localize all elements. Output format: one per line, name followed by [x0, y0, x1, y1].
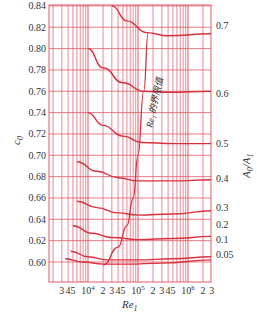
y-tick-label: 0.62 — [29, 235, 47, 246]
x-tick-label: 104 — [81, 284, 95, 296]
x-tick-label: 2 — [151, 285, 156, 296]
x-tick-label: 105 — [131, 284, 145, 296]
curve-ratio-0.3 — [77, 201, 212, 215]
area-ratio-labels: 0.70.60.50.40.30.20.10.05 — [216, 20, 234, 260]
ratio-label: 0.2 — [216, 219, 229, 230]
x-tick-label: 2 — [201, 285, 206, 296]
y-tick-label: 0.84 — [29, 0, 47, 11]
y-tick-label: 0.60 — [29, 257, 47, 268]
ratio-label: 0.5 — [216, 138, 229, 149]
curve-ratio-0.4 — [77, 162, 212, 181]
x-tick-label: 3 — [209, 285, 214, 296]
x-axis-ticks: 3451042345105234510623 — [59, 284, 214, 296]
ratio-label: 0.7 — [216, 20, 229, 31]
y-axis-label: c0 — [10, 136, 25, 145]
curve-ratio-0.1 — [71, 251, 212, 260]
chart: Re₁ 的界限值 0.840.820.800.780.760.740.720.7… — [0, 0, 257, 315]
y-tick-label: 0.80 — [29, 43, 47, 54]
x-tick-label: 3 — [159, 285, 164, 296]
y-tick-label: 0.70 — [29, 150, 47, 161]
ratio-label: 0.6 — [216, 88, 229, 99]
x-axis-label: Re1 — [121, 298, 138, 313]
ratio-label: 0.05 — [216, 249, 234, 260]
x-tick-label: 106 — [181, 284, 195, 296]
x-tick-label: 3 — [109, 285, 114, 296]
curve-ratio-0.6 — [88, 49, 212, 93]
ratio-label: 0.1 — [216, 234, 229, 245]
curve-ratio-0.2 — [73, 226, 212, 240]
y-tick-label: 0.76 — [29, 86, 47, 97]
critical-re-curve — [103, 33, 148, 266]
x-tick-label: 5 — [120, 285, 125, 296]
y-tick-label: 0.82 — [29, 22, 47, 33]
critical-curve-label: Re₁ 的界限值 — [144, 75, 166, 130]
curves — [65, 6, 212, 264]
ratio-label: 0.3 — [216, 202, 229, 213]
ratio-label: 0.4 — [216, 173, 229, 184]
y-tick-label: 0.74 — [29, 107, 47, 118]
x-tick-label: 5 — [70, 285, 75, 296]
x-tick-label: 2 — [101, 285, 106, 296]
y-tick-label: 0.64 — [29, 214, 47, 225]
y-tick-label: 0.68 — [29, 171, 47, 182]
y-tick-label: 0.72 — [29, 128, 47, 139]
y-axis-ticks: 0.840.820.800.780.760.740.720.700.680.66… — [29, 0, 47, 267]
y-tick-label: 0.78 — [29, 64, 47, 75]
critical-curve: Re₁ 的界限值 — [103, 33, 166, 266]
y-tick-label: 0.66 — [29, 192, 47, 203]
x-tick-label: 5 — [170, 285, 175, 296]
x-tick-label: 3 — [59, 285, 64, 296]
y2-axis-label: A0/A1 — [240, 153, 255, 179]
